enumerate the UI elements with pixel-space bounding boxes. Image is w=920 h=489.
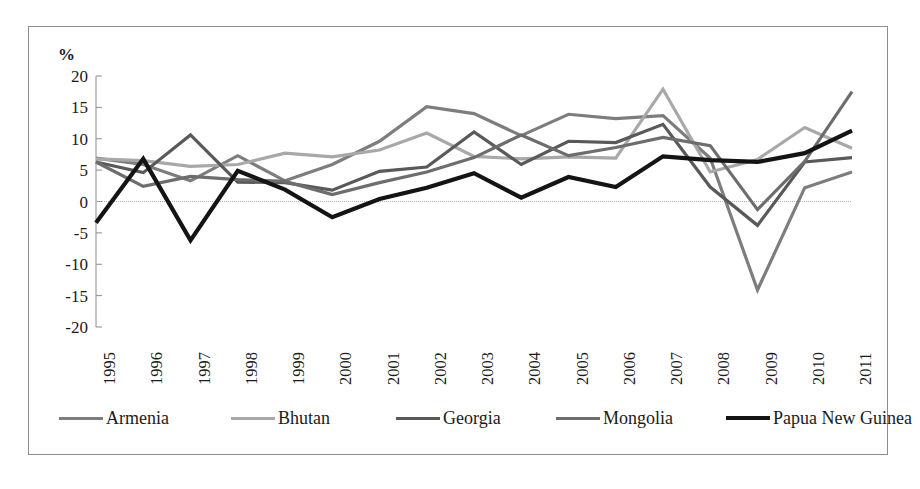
chart-figure: % 20151050-5-10-15-20 199519961997199819… xyxy=(0,0,920,489)
x-axis-tick-label: 1996 xyxy=(149,352,166,385)
series-line xyxy=(96,107,852,290)
y-axis-tick-label: 5 xyxy=(44,162,88,179)
x-axis-tick-label: 2004 xyxy=(527,352,544,385)
y-axis-tick-label: -20 xyxy=(44,319,88,336)
y-axis-tick-label: -10 xyxy=(44,256,88,273)
legend-item[interactable]: Georgia xyxy=(396,409,501,427)
y-axis-tick-label: 15 xyxy=(44,99,88,116)
legend-label: Papua New Guinea xyxy=(773,409,912,427)
legend-label: Bhutan xyxy=(278,409,330,427)
legend-swatch-icon xyxy=(59,417,103,420)
legend-label: Georgia xyxy=(443,409,501,427)
x-axis-tick-label: 2001 xyxy=(386,352,403,385)
legend-swatch-icon xyxy=(726,416,770,420)
legend-item[interactable]: Armenia xyxy=(59,409,169,427)
x-axis-tick-label: 2007 xyxy=(669,352,686,385)
series-lines xyxy=(96,76,852,327)
y-axis-tick-label: -15 xyxy=(44,287,88,304)
x-axis-tick-label: 1998 xyxy=(244,352,261,385)
legend-swatch-icon xyxy=(231,417,275,420)
y-axis-tick-label: -5 xyxy=(44,224,88,241)
x-axis-tick-label: 2006 xyxy=(622,352,639,385)
y-axis-unit-label: % xyxy=(58,46,75,63)
x-axis-tick-label: 1995 xyxy=(102,352,119,385)
legend-swatch-icon xyxy=(396,417,440,420)
x-axis-tick-label: 2002 xyxy=(433,352,450,385)
legend-item[interactable]: Mongolia xyxy=(556,409,673,427)
x-axis-tick-label: 2011 xyxy=(858,353,875,385)
y-axis-tick-label: 0 xyxy=(44,193,88,210)
plot-area xyxy=(96,76,852,327)
legend-item[interactable]: Bhutan xyxy=(231,409,330,427)
chart-legend: ArmeniaBhutanGeorgiaMongoliaPapua New Gu… xyxy=(36,407,881,437)
y-axis-tick-label: 10 xyxy=(44,130,88,147)
x-axis-tick-label: 2000 xyxy=(338,352,355,385)
x-axis-tick-label: 1999 xyxy=(291,352,308,385)
x-axis-tick-label: 2010 xyxy=(811,352,828,385)
series-line xyxy=(96,92,852,210)
legend-label: Mongolia xyxy=(603,409,673,427)
legend-item[interactable]: Papua New Guinea xyxy=(726,409,912,427)
x-axis-tick-label: 2003 xyxy=(480,352,497,385)
x-axis-tick-label: 2008 xyxy=(716,352,733,385)
legend-swatch-icon xyxy=(556,417,600,420)
legend-label: Armenia xyxy=(106,409,169,427)
x-axis-tick-label: 1997 xyxy=(197,352,214,385)
x-axis-tick-label: 2009 xyxy=(764,352,781,385)
x-axis-tick-label: 2005 xyxy=(575,352,592,385)
y-axis-tick-label: 20 xyxy=(44,68,88,85)
